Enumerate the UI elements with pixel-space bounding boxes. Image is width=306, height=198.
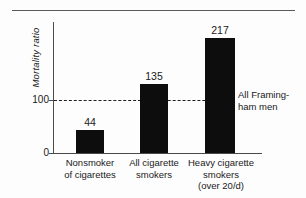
bar-heavy-cigarette-smokers: [205, 38, 235, 153]
x-axis-line: [53, 153, 262, 154]
bar-all-cigarette-smokers: [140, 84, 168, 153]
y-tick-label-100: 100: [20, 95, 49, 105]
top-divider-rule: [12, 10, 295, 11]
bar-value-nonsmoker: 44: [66, 117, 114, 128]
y-tick-mark-0: [49, 153, 54, 154]
reference-line-label: All Framing- ham men: [238, 89, 304, 112]
y-tick-label-0: 0: [20, 148, 49, 158]
y-axis-line: [53, 22, 54, 154]
bar-category-all-cigarette-smokers: All cigarette smokers: [120, 157, 188, 180]
y-tick-0: 0: [20, 148, 49, 158]
bar-category-nonsmoker: Nonsmoker of cigarettes: [52, 157, 128, 180]
bar-value-heavy-cigarette-smokers: 217: [196, 25, 244, 36]
mortality-ratio-bar-chart: Mortality ratio 100 0 All Framing- ham m…: [0, 0, 306, 198]
bar-category-heavy-cigarette-smokers: Heavy cigarette smokers (over 20/d): [181, 157, 261, 192]
y-tick-100: 100: [20, 95, 49, 105]
y-axis-title: Mortality ratio: [30, 18, 41, 98]
bar-nonsmoker: [76, 130, 104, 153]
bar-value-all-cigarette-smokers: 135: [130, 71, 178, 82]
